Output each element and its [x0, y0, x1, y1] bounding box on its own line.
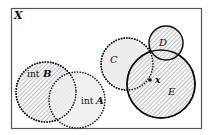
svg-text:int: int: [81, 96, 94, 106]
space-label: X: [13, 9, 23, 22]
set-c-label: C: [110, 54, 118, 65]
point-x-dot: [148, 78, 152, 82]
set-b-label: int B: [27, 68, 51, 79]
svg-text:A: A: [95, 95, 104, 106]
svg-text:B: B: [42, 68, 51, 79]
set-d-label: D: [158, 37, 167, 48]
set-a-label: int A: [81, 95, 104, 106]
point-x-label: x: [154, 75, 161, 85]
svg-text:int: int: [27, 69, 40, 79]
topology-diagram: X int B int A C D E x: [0, 0, 213, 135]
set-e-label: E: [167, 86, 176, 97]
